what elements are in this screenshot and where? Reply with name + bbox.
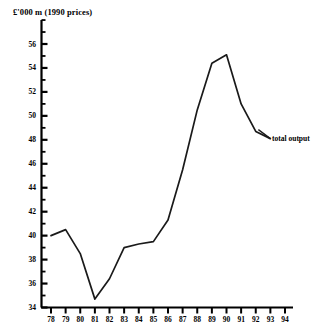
y-tick-label: 46: [22, 159, 36, 168]
x-tick-label: 94: [278, 315, 292, 324]
data-series-group: [51, 55, 270, 299]
x-tick-label: 81: [88, 315, 102, 324]
axes: [41, 20, 293, 308]
line-chart: £'000 m (1990 prices) 343638404244464850…: [0, 0, 321, 336]
series-label-total-output: total output: [272, 134, 310, 143]
x-tick-label: 83: [117, 315, 131, 324]
y-tick-label: 36: [22, 279, 36, 288]
x-tick-label: 93: [263, 315, 277, 324]
y-tick-label: 48: [22, 135, 36, 144]
x-tick-label: 85: [146, 315, 160, 324]
x-tick-label: 82: [103, 315, 117, 324]
x-tick-label: 89: [205, 315, 219, 324]
y-tick-label: 56: [22, 40, 36, 49]
y-tick-label: 52: [22, 87, 36, 96]
y-tick-label: 38: [22, 255, 36, 264]
y-tick-label: 40: [22, 231, 36, 240]
x-tick-label: 78: [44, 315, 58, 324]
series-line-total-output: [51, 55, 270, 299]
x-tick-label: 88: [190, 315, 204, 324]
x-tick-label: 79: [59, 315, 73, 324]
y-tick-label: 54: [22, 63, 36, 72]
y-tick-label: 44: [22, 183, 36, 192]
y-tick-label: 42: [22, 207, 36, 216]
chart-canvas: [0, 0, 321, 336]
x-tick-label: 91: [234, 315, 248, 324]
x-tick-label: 92: [249, 315, 263, 324]
x-tick-label: 90: [220, 315, 234, 324]
x-tick-label: 80: [73, 315, 87, 324]
y-tick-label: 50: [22, 111, 36, 120]
x-tick-label: 84: [132, 315, 146, 324]
y-tick-label: 34: [22, 303, 36, 312]
x-tick-label: 86: [161, 315, 175, 324]
x-tick-label: 87: [176, 315, 190, 324]
